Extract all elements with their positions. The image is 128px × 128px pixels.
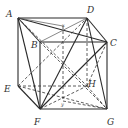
label-A: A [5,9,13,19]
label-C: C [110,38,117,48]
label-y: y [60,101,64,108]
diagonals-hidden [18,18,107,109]
label-x: x [62,22,65,28]
cube-diagram: A D B C E H F G x y [0,0,128,128]
label-F: F [33,117,41,127]
diag-FD [40,18,87,109]
label-E: E [3,84,11,94]
diag-DG [87,18,107,109]
label-B: B [30,40,38,50]
label-G: G [107,117,114,127]
label-H: H [87,79,96,89]
label-D: D [86,5,94,15]
diag-AF [18,18,40,109]
